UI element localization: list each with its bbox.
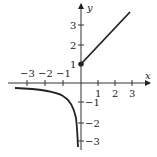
y-tick-label: −2 — [85, 118, 100, 129]
x-tick-label: −3 — [20, 68, 35, 79]
x-axis-label: x — [145, 70, 151, 81]
left-branch-curve — [15, 88, 78, 147]
x-tick-label: −1 — [56, 68, 71, 79]
y-tick-label: 3 — [70, 20, 76, 31]
x-tick-label: 2 — [112, 88, 118, 99]
closed-point — [78, 61, 83, 66]
x-tick-label: −2 — [38, 68, 53, 79]
graph: x y −3 −2 −1 1 2 3 3 2 1 −1 −2 −3 — [0, 0, 157, 157]
x-tick-label: 3 — [129, 88, 135, 99]
y-tick-label: −1 — [85, 97, 100, 108]
y-tick-label: 1 — [70, 59, 76, 70]
y-axis-label: y — [86, 2, 93, 13]
y-tick-label: −3 — [85, 136, 100, 147]
right-branch-line — [81, 12, 130, 64]
y-tick-label: 2 — [70, 40, 76, 51]
